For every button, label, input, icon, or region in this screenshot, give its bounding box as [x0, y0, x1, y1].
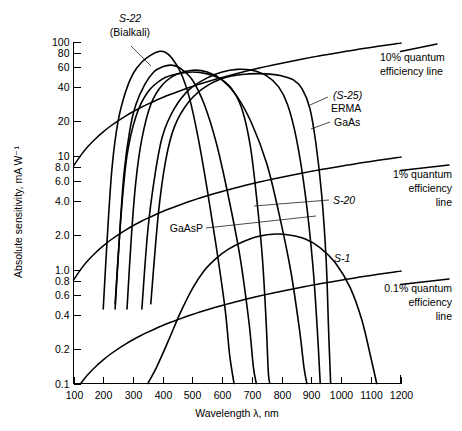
quantum-efficiency-lines: [74, 43, 450, 383]
y-tick-label: 6.0: [55, 175, 70, 187]
y-tick-label: 4.0: [55, 195, 70, 207]
label-qe10-line2: efficiency line: [380, 65, 443, 77]
leader-s20: [254, 200, 329, 206]
label-s22: S-22: [119, 12, 141, 24]
y-tick-label: 40: [58, 81, 70, 93]
label-s25: (S-25): [333, 89, 362, 101]
y-tick-label: 0.4: [55, 309, 70, 321]
quantum-efficiency-line: [74, 157, 402, 280]
y-tick-label: 60: [58, 61, 70, 73]
label-qe01-line3: line: [436, 310, 453, 322]
x-tick-label: 500: [184, 389, 202, 401]
y-tick-label: 80: [58, 47, 70, 59]
x-axis-ticks: [75, 377, 402, 384]
annotation-leaders: [131, 46, 330, 228]
y-tick-label: 8.0: [55, 161, 70, 173]
y-tick-label: 0.2: [55, 343, 70, 355]
label-qe1-line2: efficiency: [408, 182, 452, 194]
x-tick-label: 1100: [360, 389, 383, 401]
y-tick-label: 1.0: [55, 264, 70, 276]
x-tick-label: 900: [303, 389, 321, 401]
y-axis-tick-labels: 0.10.20.40.60.81.02.04.06.08.01020406080…: [52, 36, 70, 390]
x-tick-label: 600: [214, 389, 232, 401]
y-tick-label: 0.6: [55, 289, 70, 301]
x-tick-label: 200: [95, 389, 113, 401]
label-qe01-line2: efficiency: [408, 296, 452, 308]
label-qe01-line1: 0.1% quantum: [384, 282, 452, 294]
label-gaasp: GaAsP: [170, 222, 203, 234]
label-gaas: GaAs: [334, 116, 360, 128]
sensitivity-vs-wavelength-chart: 0.10.20.40.60.81.02.04.06.08.01020406080…: [0, 0, 462, 431]
x-tick-label: 400: [155, 389, 173, 401]
x-tick-label: 700: [244, 389, 262, 401]
y-tick-label: 20: [58, 115, 70, 127]
label-qe1-line1: 1% quantum: [393, 168, 452, 180]
y-axis-title: Absolute sensitivity, mA W⁻¹: [12, 146, 24, 278]
y-tick-label: 2.0: [55, 229, 70, 241]
x-tick-label: 800: [274, 389, 292, 401]
label-qe1-line3: line: [436, 196, 453, 208]
response-curve: [103, 51, 234, 383]
y-tick-label: 100: [52, 36, 70, 48]
x-tick-label: 100: [66, 389, 84, 401]
x-tick-label: 1000: [330, 389, 354, 401]
x-tick-label: 300: [125, 389, 143, 401]
figure-container: 0.10.20.40.60.81.02.04.06.08.01020406080…: [0, 0, 462, 431]
leader-gaasp: [206, 216, 316, 228]
y-tick-label: 10: [58, 150, 70, 162]
label-s22-sub: (Bialkali): [110, 26, 150, 38]
label-s20: S-20: [333, 194, 355, 206]
leader-s25-erma: [310, 97, 328, 105]
label-s1: S-1: [334, 252, 350, 264]
label-erma: ERMA: [331, 102, 361, 114]
y-axis-ticks: [74, 43, 81, 385]
x-axis-tick-labels: 100200300400500600700800900100011001200: [66, 389, 414, 401]
x-tick-label: 1200: [390, 389, 414, 401]
label-qe10-line1: 10% quantum: [380, 51, 445, 63]
y-tick-label: 0.8: [55, 275, 70, 287]
response-curve: [142, 69, 320, 383]
x-axis-title: Wavelength λ, nm: [195, 407, 279, 419]
